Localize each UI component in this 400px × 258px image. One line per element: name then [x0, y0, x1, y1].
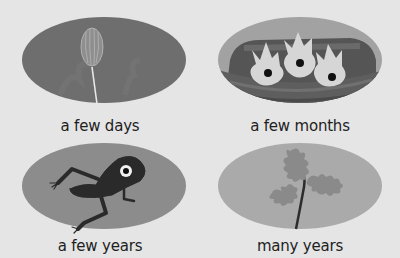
card-many-years[interactable]: many years: [200, 129, 400, 258]
card-a-few-months[interactable]: a few months: [200, 0, 400, 129]
card-label: many years: [200, 237, 400, 255]
card-a-few-years[interactable]: a few years: [0, 129, 200, 258]
baby-birds-illustration: [200, 0, 400, 129]
card-label: a few years: [0, 237, 200, 255]
seedling-illustration: [0, 0, 200, 129]
card-a-few-days[interactable]: a few days: [0, 0, 200, 129]
